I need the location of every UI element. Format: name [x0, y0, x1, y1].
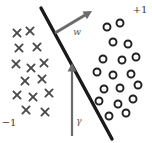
- margin-label: γ: [76, 116, 82, 126]
- figure-canvas: +1 −1 w γ: [0, 0, 152, 143]
- negative-class-label: −1: [2, 117, 17, 128]
- weight-vector-label: w: [73, 27, 81, 37]
- svm-margin-diagram: +1 −1 w γ: [0, 0, 152, 143]
- positive-class-label: +1: [133, 4, 148, 15]
